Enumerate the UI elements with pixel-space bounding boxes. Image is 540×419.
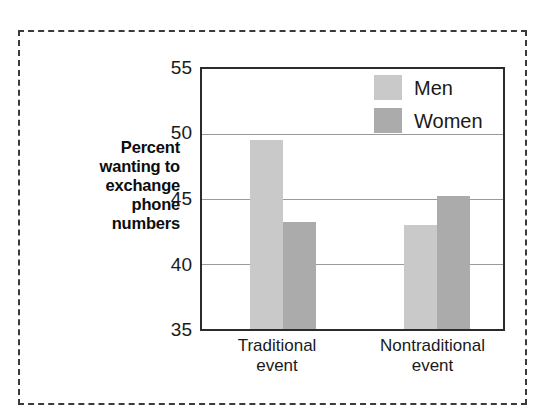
plot-area: Men Women — [200, 67, 505, 331]
legend-entry-men: Men — [374, 71, 509, 104]
legend-swatch-men-icon — [374, 75, 402, 100]
legend-label-men: Men — [414, 78, 453, 98]
bar-women-group-2 — [437, 196, 470, 329]
y-axis-title-line-2: wanting to — [28, 157, 180, 176]
x-category-label-nontraditional: Nontraditional event — [361, 336, 504, 376]
legend-swatch-women-icon — [374, 108, 402, 133]
y-tick-label-45: 45 — [152, 189, 192, 208]
bar-men-group-1 — [250, 140, 283, 329]
x-category-label-traditional: Traditional event — [212, 336, 342, 376]
y-tick-label-35: 35 — [152, 320, 192, 339]
legend-entry-women: Women — [374, 104, 509, 137]
x-category-label-traditional-line-1: Traditional — [212, 336, 342, 356]
gridline-50 — [202, 134, 503, 135]
y-axis-title-line-5: numbers — [28, 214, 180, 233]
figure-root: Percent wanting to exchange phone number… — [0, 0, 540, 419]
bar-women-group-1 — [283, 222, 316, 329]
legend-label-women: Women — [414, 111, 483, 131]
x-category-label-traditional-line-2: event — [212, 356, 342, 376]
y-tick-label-40: 40 — [152, 255, 192, 274]
y-tick-label-50: 50 — [152, 123, 192, 142]
x-category-label-nontraditional-line-1: Nontraditional — [361, 336, 504, 356]
x-category-label-nontraditional-line-2: event — [361, 356, 504, 376]
y-axis-title: Percent wanting to exchange phone number… — [28, 138, 180, 233]
chart-legend: Men Women — [374, 71, 509, 137]
bar-men-group-2 — [404, 225, 437, 329]
plot-inner: Men Women — [202, 69, 503, 329]
y-tick-label-55: 55 — [152, 58, 192, 77]
